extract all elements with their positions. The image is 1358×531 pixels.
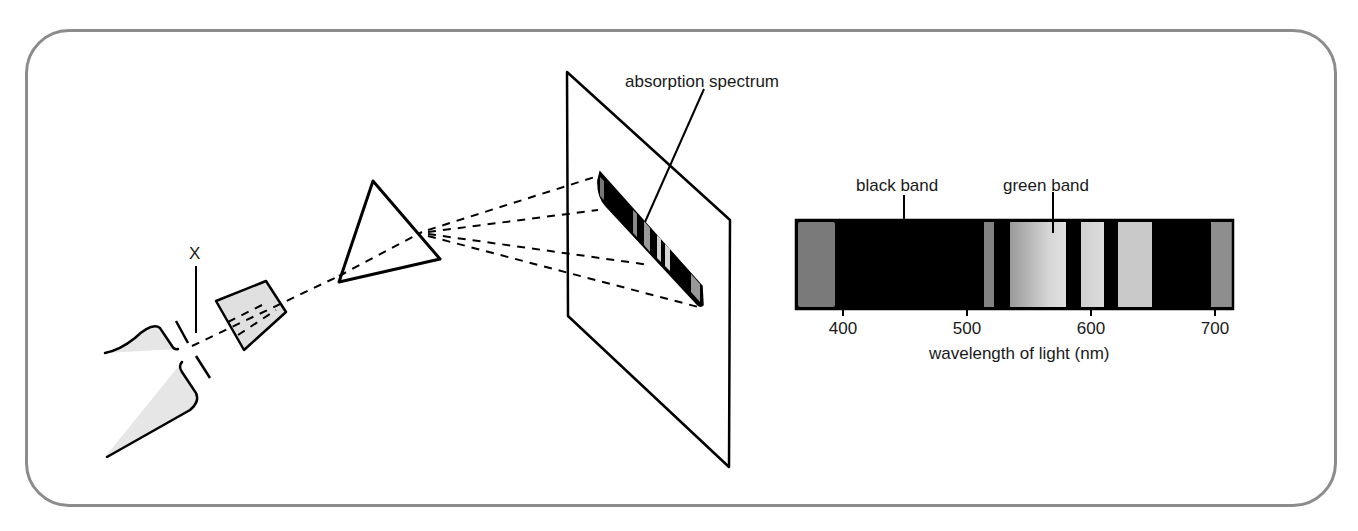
- slit-label: X: [189, 245, 200, 262]
- absorption-spectrum-label: absorption spectrum: [625, 73, 779, 90]
- tick-label-500: 500: [953, 320, 981, 337]
- absorption-leader-line: [645, 89, 704, 222]
- lens-icon: [216, 281, 286, 350]
- tick-label-600: 600: [1077, 320, 1105, 337]
- light-source-icon: [105, 326, 197, 457]
- black-band-label: black band: [856, 177, 938, 194]
- projected-spectrum-icon: [598, 172, 703, 306]
- screen-icon: [567, 72, 730, 467]
- green-band-label: green band: [1003, 177, 1089, 194]
- spectrum-bar: [796, 220, 1233, 309]
- tick-label-400: 400: [829, 320, 857, 337]
- tick-label-700: 700: [1201, 320, 1229, 337]
- green-band: [1010, 222, 1066, 307]
- x-axis-label: wavelength of light (nm): [929, 345, 1109, 362]
- truncated-caption: [0, 524, 1358, 531]
